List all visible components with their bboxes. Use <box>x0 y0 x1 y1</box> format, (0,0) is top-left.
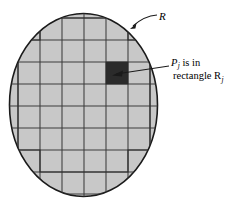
callout-label-Pj: Pj is in rectangle Rj <box>171 57 224 84</box>
callout-line2: rectangle Rj <box>171 70 224 83</box>
callout-line2-text: rectangle R <box>173 70 221 81</box>
callout-leader-R <box>130 15 157 29</box>
region-label-R: R <box>159 10 166 22</box>
callout-line1-rest: is in <box>180 57 200 68</box>
region-diagram <box>0 0 249 210</box>
callout-subscript-j2: j <box>221 75 223 84</box>
figure-container: R Pj is in rectangle Rj <box>0 0 249 210</box>
